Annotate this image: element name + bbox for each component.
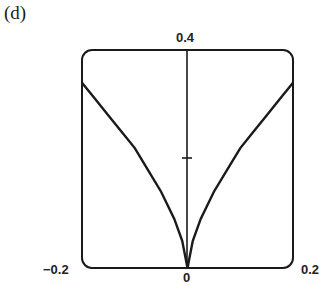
x-max-label: 0.2 xyxy=(301,262,319,277)
x-zero-label: 0 xyxy=(183,270,190,285)
plot-area xyxy=(0,0,328,293)
y-top-label: 0.4 xyxy=(176,30,194,45)
x-min-label: −0.2 xyxy=(43,262,69,277)
